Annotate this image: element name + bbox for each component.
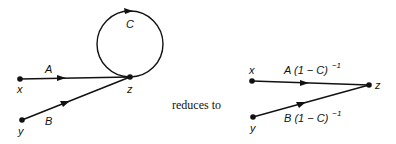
- edge-a: [20, 77, 130, 79]
- edge-label-a-reduced: A (1 − C) −1: [283, 60, 341, 77]
- arrow-icon: [124, 8, 133, 14]
- node-label-y: y: [17, 125, 25, 137]
- node-y: [19, 117, 25, 123]
- edge-label-b-sup: −1: [332, 109, 341, 118]
- node-z: [127, 74, 133, 80]
- edge-label-b: B: [45, 115, 52, 127]
- edge-label-a-main: A (1 − C): [283, 64, 328, 76]
- signal-flow-diagram: C A B x y z reduces to A (1 − C) −1 B (1…: [0, 0, 396, 144]
- node-y-reduced: [250, 114, 256, 120]
- arrow-icon: [300, 80, 309, 86]
- edge-label-b-reduced: B (1 − C) −1: [284, 108, 341, 125]
- node-label-x-reduced: x: [248, 64, 255, 76]
- node-label-y-reduced: y: [249, 122, 257, 134]
- edge-b: [22, 77, 130, 120]
- left-graph: C A B x y z: [16, 8, 163, 137]
- arrow-icon: [57, 75, 66, 81]
- node-label-x: x: [16, 83, 23, 95]
- node-x-reduced: [249, 78, 255, 84]
- edge-label-a-sup: −1: [332, 61, 341, 70]
- node-z-reduced: [366, 82, 372, 88]
- arrow-icon: [296, 102, 306, 108]
- edge-label-c: C: [126, 18, 134, 30]
- reduces-to-text: reduces to: [172, 98, 221, 112]
- edge-label-b-main: B (1 − C): [284, 112, 329, 124]
- edge-label-a: A: [44, 63, 52, 75]
- edge-a-reduced: [252, 81, 369, 85]
- node-label-z-reduced: z: [374, 79, 381, 91]
- node-label-z: z: [126, 83, 133, 95]
- node-x: [17, 76, 23, 82]
- right-graph: A (1 − C) −1 B (1 − C) −1 x y z: [248, 60, 381, 134]
- arrow-icon: [60, 101, 70, 107]
